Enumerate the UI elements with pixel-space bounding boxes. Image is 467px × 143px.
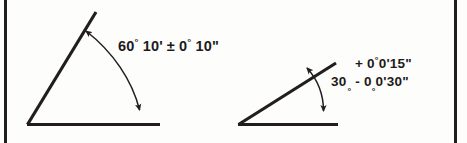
upper-tolerance-seconds: 15 (390, 56, 405, 71)
right-lower-tolerance-line: 30°-0°0'30" (331, 73, 412, 91)
degree-symbol-icon: ° (187, 36, 191, 47)
left-nominal-degrees: 60 (118, 38, 135, 54)
right-angle-diagram (238, 63, 338, 125)
plus-minus-icon: ± (167, 38, 175, 54)
upper-sign-icon: + (355, 56, 363, 71)
left-tolerance-seconds: 10 (195, 38, 212, 54)
right-upper-tolerance-line: +0°0'15" (331, 55, 412, 73)
minute-prime-icon: ' (159, 38, 163, 54)
second-double-prime-icon: " (212, 38, 219, 54)
lower-tolerance-seconds: 30 (387, 73, 402, 91)
left-inclined-line (28, 12, 97, 125)
angular-tolerance-figure: 60°10'±0°10" +0°0'15" 30°-0°0'30" (0, 0, 467, 143)
lower-sign-icon: - (355, 73, 360, 91)
left-nominal-minutes: 10 (143, 38, 160, 54)
second-double-prime-icon: " (405, 56, 412, 71)
lower-tolerance-minutes: 0 (376, 73, 384, 91)
left-angle-dimension-label: 60°10'±0°10" (118, 38, 219, 54)
second-double-prime-icon: " (402, 73, 409, 91)
lower-tolerance-degrees: 0 (364, 73, 372, 91)
upper-tolerance-degrees: 0 (367, 56, 375, 71)
right-angle-dimension-label: +0°0'15" 30°-0°0'30" (331, 55, 412, 91)
degree-symbol-icon: ° (135, 36, 139, 47)
left-angle-diagram (27, 12, 160, 125)
right-nominal-degrees: 30 (331, 73, 346, 91)
